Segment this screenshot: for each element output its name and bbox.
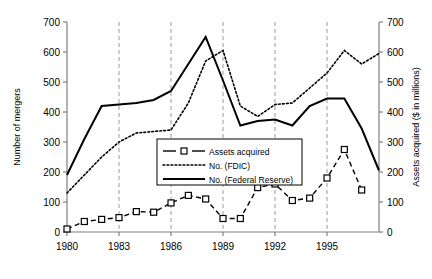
data-point-marker — [307, 195, 313, 201]
x-axis-tick-label-1992: 1992 — [264, 241, 287, 252]
data-point-marker — [341, 147, 347, 153]
right-axis-tick-label-400: 400 — [387, 107, 404, 118]
legend-label-0: Assets acquired — [209, 147, 270, 157]
left-axis-title: Number of mergers — [12, 88, 22, 166]
x-axis-tick-label-1995: 1995 — [316, 241, 339, 252]
x-axis-tick-label-1983: 1983 — [108, 241, 131, 252]
left-axis-tick-label-200: 200 — [43, 167, 60, 178]
data-point-marker — [185, 192, 191, 198]
left-axis-tick-label-700: 700 — [43, 17, 60, 28]
data-point-marker — [116, 215, 122, 221]
chart-container: 0100200300400500600700010020030040050060… — [0, 0, 432, 279]
data-point-marker — [220, 216, 226, 222]
right-axis-tick-label-300: 300 — [387, 137, 404, 148]
data-point-marker — [324, 175, 330, 181]
data-point-marker — [289, 198, 295, 204]
data-point-marker — [151, 209, 157, 215]
data-point-marker — [359, 187, 365, 193]
left-axis-tick-label-300: 300 — [43, 137, 60, 148]
data-point-marker — [168, 200, 174, 206]
right-axis-tick-label-200: 200 — [387, 167, 404, 178]
data-point-marker — [99, 216, 105, 222]
x-axis-tick-label-1989: 1989 — [212, 241, 235, 252]
merger-assets-line-chart: 0100200300400500600700010020030040050060… — [0, 0, 432, 279]
legend-marker-square-icon — [181, 148, 187, 154]
right-axis-tick-label-100: 100 — [387, 197, 404, 208]
right-axis-tick-label-500: 500 — [387, 77, 404, 88]
data-point-marker — [237, 216, 243, 222]
x-axis-tick-label-1980: 1980 — [56, 241, 79, 252]
legend-label-2: No. (Federal Reserve) — [209, 175, 293, 185]
legend-label-1: No. (FDIC) — [209, 161, 250, 171]
left-axis-tick-label-400: 400 — [43, 107, 60, 118]
data-point-marker — [64, 226, 70, 232]
left-axis-tick-label-500: 500 — [43, 77, 60, 88]
data-point-marker — [133, 209, 139, 215]
chart-legend: Assets acquiredNo. (FDIC)No. (Federal Re… — [157, 139, 302, 185]
left-axis-tick-label-100: 100 — [43, 197, 60, 208]
right-axis-tick-label-700: 700 — [387, 17, 404, 28]
data-point-marker — [81, 219, 87, 225]
right-axis-title: Assets acquired ($ in millions) — [411, 67, 421, 187]
left-axis-tick-label-0: 0 — [54, 227, 60, 238]
right-axis-tick-label-0: 0 — [387, 227, 393, 238]
right-axis-tick-label-600: 600 — [387, 47, 404, 58]
x-axis-tick-label-1986: 1986 — [160, 241, 183, 252]
left-axis-tick-label-600: 600 — [43, 47, 60, 58]
data-point-marker — [203, 196, 209, 202]
